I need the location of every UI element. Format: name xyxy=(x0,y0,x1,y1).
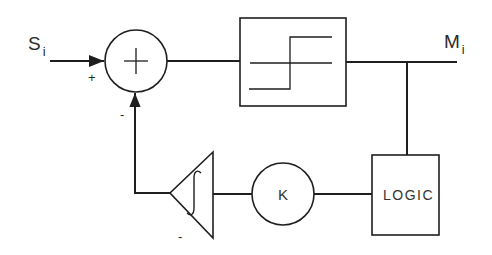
output-label: Mi xyxy=(444,32,465,51)
summing-junction xyxy=(105,30,167,92)
input-label: Si xyxy=(28,34,46,53)
integral-icon xyxy=(187,171,201,215)
block-diagram xyxy=(0,0,492,255)
logic-label: LOGIC xyxy=(383,188,434,202)
minus-sign-label: - xyxy=(120,108,124,121)
feedback-line xyxy=(135,93,170,193)
relay-block xyxy=(240,18,346,106)
integrator-block xyxy=(170,152,213,238)
integrator-sign-label: - xyxy=(178,230,182,243)
plus-sign-label: + xyxy=(88,71,96,84)
gain-label: K xyxy=(278,187,288,202)
